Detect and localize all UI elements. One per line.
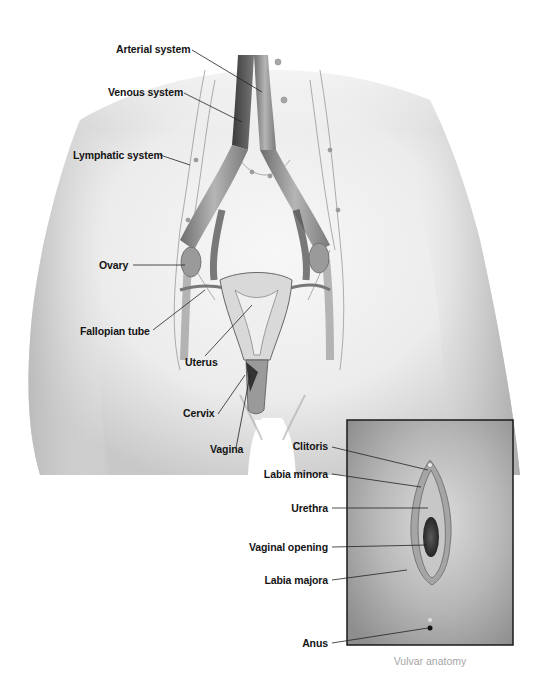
label-ovary: Ovary — [99, 259, 128, 271]
label-arterial-system: Arterial system — [116, 43, 190, 55]
label-labia-minora: Labia minora — [250, 468, 328, 480]
label-venous-system: Venous system — [108, 86, 183, 98]
label-cervix: Cervix — [183, 407, 215, 419]
label-anus: Anus — [250, 637, 328, 649]
label-uterus: Uterus — [185, 356, 218, 368]
label-clitoris: Clitoris — [250, 440, 328, 452]
label-fallopian-tube: Fallopian tube — [80, 325, 150, 337]
inset-caption: Vulvar anatomy — [347, 655, 513, 667]
vulvar-inset — [347, 420, 513, 645]
label-urethra: Urethra — [250, 502, 328, 514]
anatomy-illustration — [0, 0, 544, 700]
label-labia-majora: Labia majora — [250, 574, 328, 586]
label-vaginal-opening: Vaginal opening — [230, 541, 328, 553]
label-lymphatic-system: Lymphatic system — [73, 149, 163, 161]
label-vagina: Vagina — [210, 443, 243, 455]
